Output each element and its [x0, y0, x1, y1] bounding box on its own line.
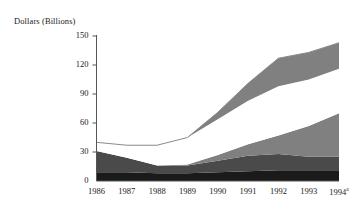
y-tick-label: 120	[55, 59, 89, 69]
x-tick-label-text: 1992	[270, 186, 287, 196]
x-tick-label-text: 1993	[300, 186, 317, 196]
x-tick-label-text: 1990	[209, 186, 226, 196]
x-tick-label: 1994a	[319, 186, 359, 197]
x-tick-label-text: 1987	[118, 186, 135, 196]
x-tick-label-text: 1986	[88, 186, 105, 196]
area-chart: Dollars (Billions) 030609012015019861987…	[0, 0, 359, 223]
y-tick-label: 60	[55, 117, 89, 127]
x-tick-label-text: 1988	[149, 186, 166, 196]
y-tick-label: 90	[55, 88, 89, 98]
x-tick-label-superscript: a	[346, 186, 348, 192]
y-tick-label: 150	[55, 30, 89, 40]
x-tick-label-text: 1991	[240, 186, 257, 196]
y-tick-label: 30	[55, 146, 89, 156]
x-tick-label-text: 1994	[329, 187, 346, 197]
y-tick-label: 0	[55, 175, 89, 185]
x-tick-label-text: 1989	[179, 186, 196, 196]
